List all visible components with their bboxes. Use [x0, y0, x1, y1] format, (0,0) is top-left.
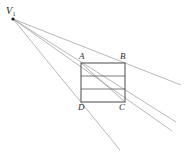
figure-canvas [0, 0, 185, 154]
vertex-label-d: D [78, 103, 85, 112]
vanishing-point-group [11, 17, 14, 20]
diagonal-group [81, 63, 125, 102]
vanishing-point-subscript: 1 [13, 11, 16, 17]
vanishing-point-label: V1 [6, 6, 15, 16]
vanishing-point-letter: V [6, 5, 12, 16]
vanishing-point-dot [11, 17, 14, 20]
diagonal-line-ac [81, 63, 125, 102]
ray-line-top [13, 19, 181, 85]
ray-line-lower-mid [13, 19, 172, 131]
ray-line-upper-mid [13, 19, 176, 122]
vertex-label-a: A [79, 52, 85, 61]
vertex-label-b: B [120, 52, 126, 61]
ray-line-bottom [13, 19, 120, 150]
vertex-label-c: C [119, 103, 125, 112]
vanishing-rays-group [13, 19, 181, 150]
perspective-diagram: V1 A B C D [0, 0, 185, 154]
